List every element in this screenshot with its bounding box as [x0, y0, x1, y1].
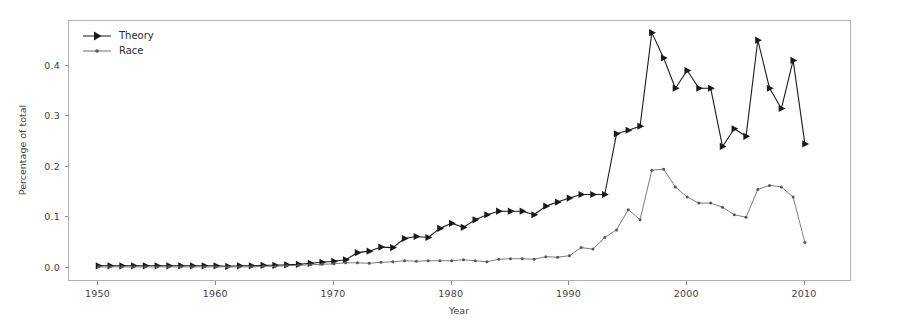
data-point	[627, 208, 630, 211]
legend-marker-theory	[82, 30, 112, 42]
x-tick-label: 2000	[674, 288, 699, 299]
data-point	[614, 130, 621, 137]
data-point	[144, 265, 147, 268]
data-point	[497, 258, 500, 261]
data-point	[274, 265, 277, 268]
legend-item-theory: Theory	[82, 28, 154, 43]
data-point	[378, 243, 385, 250]
data-point	[285, 264, 288, 267]
data-point	[521, 257, 524, 260]
data-point	[684, 67, 691, 74]
x-tick-label: 1980	[438, 288, 463, 299]
x-tick-label: 2010	[791, 288, 816, 299]
data-point	[437, 225, 444, 232]
data-point	[697, 202, 700, 205]
data-point	[297, 264, 300, 267]
data-point	[555, 198, 562, 205]
data-point	[615, 228, 618, 231]
data-point	[215, 265, 218, 268]
data-point	[803, 241, 806, 244]
data-point	[179, 265, 182, 268]
data-point	[403, 259, 406, 262]
data-point	[120, 265, 123, 268]
data-point	[662, 168, 665, 171]
data-point	[97, 265, 100, 268]
data-point	[508, 208, 515, 215]
legend-marker-race	[82, 45, 112, 57]
data-point	[356, 261, 359, 264]
data-point	[391, 260, 394, 263]
data-point	[438, 259, 441, 262]
series-theory	[96, 29, 809, 270]
data-point	[696, 85, 703, 92]
data-point	[203, 265, 206, 268]
x-tick-label: 1990	[556, 288, 581, 299]
data-point	[544, 255, 547, 258]
data-point	[674, 185, 677, 188]
y-tick-label: 0.2	[38, 160, 60, 171]
legend-label-theory: Theory	[119, 30, 154, 41]
x-axis-label: Year	[449, 305, 469, 316]
data-point	[238, 265, 241, 268]
chart-lines	[69, 21, 852, 282]
data-point	[721, 206, 724, 209]
x-tick-label: 1960	[203, 288, 228, 299]
data-point	[473, 216, 480, 223]
y-tick-label: 0.1	[38, 211, 60, 222]
data-point	[226, 265, 229, 268]
data-point	[355, 249, 362, 256]
y-tick-label: 0.4	[38, 59, 60, 70]
y-axis-label: Percentage of total	[17, 105, 28, 195]
plot-area	[68, 20, 851, 281]
data-point	[262, 265, 265, 268]
data-point	[402, 235, 409, 242]
data-point	[768, 184, 771, 187]
data-point	[496, 208, 503, 215]
data-point	[792, 196, 795, 199]
y-tick-label: 0.3	[38, 110, 60, 121]
data-point	[639, 218, 642, 221]
data-point	[509, 257, 512, 260]
data-point	[250, 265, 253, 268]
legend-label-race: Race	[119, 45, 144, 56]
data-point	[626, 127, 633, 134]
data-point	[414, 233, 421, 240]
data-point	[427, 259, 430, 262]
data-point	[591, 248, 594, 251]
x-tick-label: 1950	[85, 288, 110, 299]
data-point	[580, 246, 583, 249]
data-point	[380, 261, 383, 264]
data-point	[567, 194, 574, 201]
data-point	[780, 185, 783, 188]
data-point	[484, 211, 491, 218]
data-point	[449, 220, 456, 227]
data-point	[543, 203, 550, 210]
data-point	[332, 262, 335, 265]
data-point	[474, 259, 477, 262]
data-point	[485, 260, 488, 263]
data-point	[109, 265, 112, 268]
series-race	[97, 168, 806, 269]
data-point	[191, 265, 194, 268]
data-point	[168, 265, 171, 268]
data-point	[603, 236, 606, 239]
data-point	[568, 254, 571, 257]
y-tick-label: 0.0	[38, 261, 60, 272]
data-point	[720, 143, 727, 150]
data-point	[673, 85, 680, 92]
data-point	[686, 196, 689, 199]
data-point	[462, 258, 465, 261]
data-point	[802, 140, 809, 147]
data-point	[590, 191, 597, 198]
data-point	[767, 85, 774, 92]
data-point	[756, 188, 759, 191]
data-point	[321, 263, 324, 266]
legend-item-race: Race	[82, 43, 154, 58]
data-point	[156, 265, 159, 268]
data-point	[650, 169, 653, 172]
chart-figure: Percentage of total Year 0.00.10.20.30.4…	[0, 0, 899, 329]
data-point	[132, 265, 135, 268]
data-point	[709, 202, 712, 205]
data-point	[533, 258, 536, 261]
data-point	[578, 191, 585, 198]
